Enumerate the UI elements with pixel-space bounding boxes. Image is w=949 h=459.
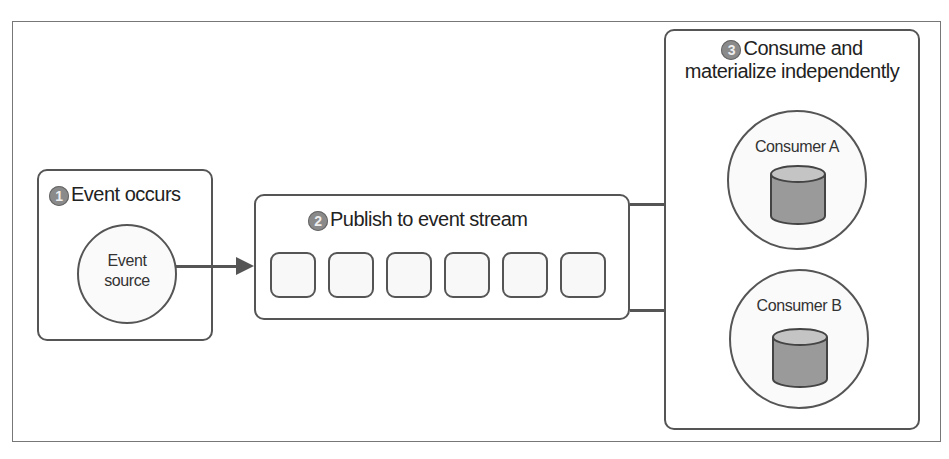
stream-slots	[270, 252, 606, 298]
consumer-b-label: Consumer B	[731, 297, 867, 315]
stream-event-slot	[560, 252, 606, 298]
stream-event-slot	[270, 252, 316, 298]
step-3-title: 3Consume and materialize independently	[666, 37, 918, 83]
consumer-a-label: Consumer A	[729, 138, 865, 156]
consumer-a-node: Consumer A	[727, 110, 867, 250]
step-3-badge: 3	[721, 40, 741, 60]
stream-event-slot	[386, 252, 432, 298]
step-2-title: 2Publish to event stream	[308, 208, 528, 231]
event-source-label-1: Event	[79, 251, 175, 271]
stream-event-slot	[444, 252, 490, 298]
database-icon	[771, 327, 829, 389]
event-stream-box: 2Publish to event stream	[254, 194, 630, 320]
event-source-label-2: source	[79, 271, 175, 291]
stream-event-slot	[328, 252, 374, 298]
consumers-box: 3Consume and materialize independently C…	[664, 29, 920, 430]
database-icon	[769, 164, 827, 226]
arrowhead-icon	[236, 257, 254, 275]
consumer-b-node: Consumer B	[729, 269, 869, 409]
step-1-badge: 1	[49, 186, 69, 206]
event-source-node: Event source	[77, 224, 177, 324]
event-occurs-box: 1Event occurs Event source	[37, 169, 213, 341]
step-2-badge: 2	[308, 211, 328, 231]
step-1-title: 1Event occurs	[49, 183, 181, 206]
arrow-source-to-stream	[175, 265, 237, 268]
stream-event-slot	[502, 252, 548, 298]
